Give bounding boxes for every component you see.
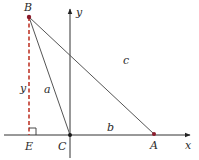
label-height-y: y xyxy=(19,82,27,95)
label-y-axis: y xyxy=(75,6,83,19)
label-A: A xyxy=(149,139,158,152)
side-a xyxy=(29,17,70,135)
label-x-axis: x xyxy=(185,139,192,152)
label-side-c: c xyxy=(123,54,129,67)
triangle-diagram: B y c a y b E C A x xyxy=(0,0,199,160)
side-c xyxy=(29,17,154,134)
point-B xyxy=(27,15,31,19)
label-C: C xyxy=(58,140,67,153)
point-A xyxy=(152,132,156,136)
label-B: B xyxy=(23,1,32,14)
label-side-a: a xyxy=(44,83,51,96)
point-C xyxy=(68,133,72,137)
label-side-b: b xyxy=(107,121,114,134)
label-E: E xyxy=(24,140,33,153)
right-angle-marker xyxy=(29,128,36,135)
